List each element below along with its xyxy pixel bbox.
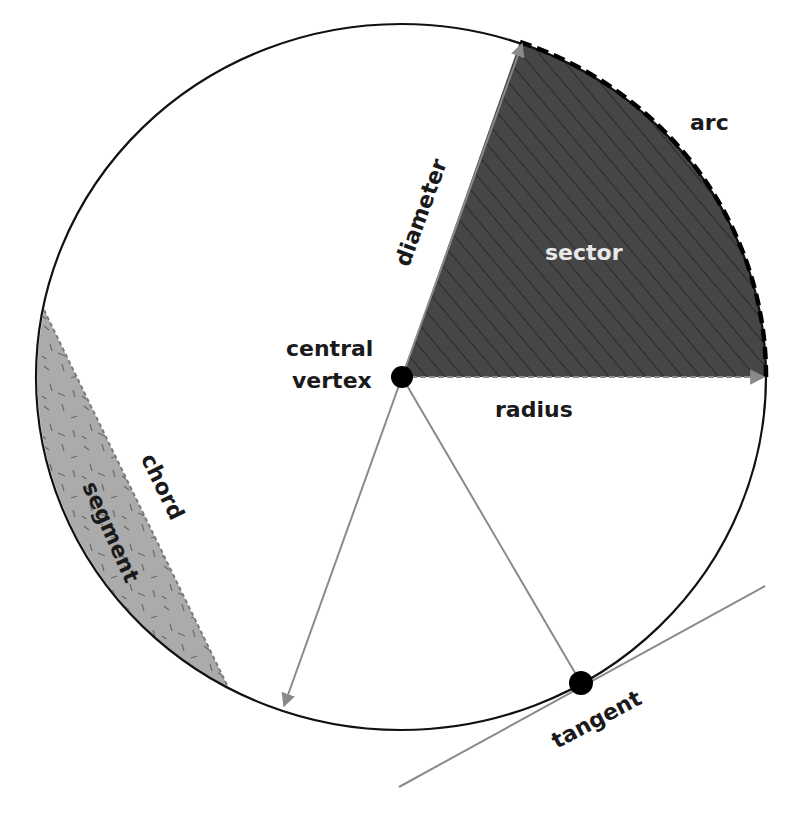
chord-label: chord bbox=[136, 450, 189, 524]
circle-diagram: arc sector diameter central vertex radiu… bbox=[0, 0, 795, 815]
radius-to-tangent-point bbox=[402, 377, 581, 683]
tangent-label: tangent bbox=[547, 685, 646, 753]
arc-label: arc bbox=[690, 110, 729, 135]
diagram-canvas: arc sector diameter central vertex radiu… bbox=[0, 0, 795, 815]
radius-label: radius bbox=[495, 397, 573, 422]
diameter-label: diameter bbox=[390, 155, 452, 269]
radius-arrow-lower bbox=[284, 377, 402, 706]
segment-region bbox=[37, 310, 228, 687]
vertex-label: vertex bbox=[292, 368, 372, 393]
sector-label: sector bbox=[545, 240, 623, 265]
tangent-point bbox=[569, 671, 593, 695]
central-vertex-point bbox=[391, 366, 413, 388]
central-label: central bbox=[286, 336, 373, 361]
sector-region bbox=[402, 42, 766, 377]
